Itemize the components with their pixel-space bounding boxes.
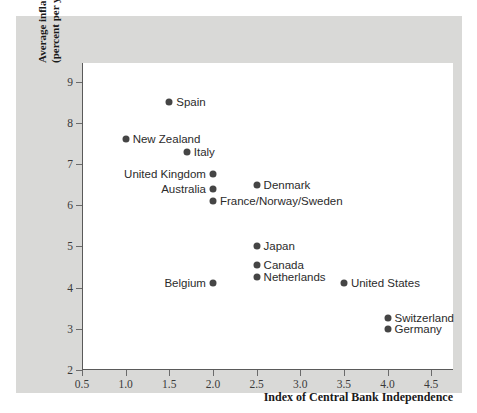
data-point-marker[interactable] bbox=[166, 99, 173, 106]
y-tick-label: 6 bbox=[67, 199, 73, 211]
x-tick-mark bbox=[344, 370, 345, 376]
figure-panel: 23456789 0.51.01.52.02.53.03.54.04.5 Spa… bbox=[16, 16, 462, 393]
y-tick-mark bbox=[76, 164, 82, 165]
data-point-label: Canada bbox=[264, 259, 304, 271]
y-tick-mark bbox=[76, 288, 82, 289]
y-axis-title: Average inflation (percent per year) bbox=[36, 0, 62, 63]
x-tick-label: 2.0 bbox=[206, 378, 220, 390]
data-point-marker[interactable] bbox=[183, 148, 190, 155]
data-point-label: Denmark bbox=[264, 179, 311, 191]
y-tick-mark bbox=[76, 205, 82, 206]
data-point-marker[interactable] bbox=[122, 136, 129, 143]
x-tick-mark bbox=[169, 370, 170, 376]
x-tick-mark bbox=[82, 370, 83, 376]
y-tick-label: 7 bbox=[67, 158, 73, 170]
data-point-label: Italy bbox=[194, 146, 215, 158]
data-point-marker[interactable] bbox=[209, 171, 216, 178]
data-point-label: Belgium bbox=[164, 277, 206, 289]
data-point-marker[interactable] bbox=[253, 261, 260, 268]
x-tick-label: 1.5 bbox=[162, 378, 176, 390]
data-point-marker[interactable] bbox=[384, 315, 391, 322]
y-axis-title-line1: Average inflation bbox=[36, 0, 49, 63]
x-tick-label: 1.0 bbox=[118, 378, 132, 390]
data-point-marker[interactable] bbox=[253, 274, 260, 281]
x-tick-label: 0.5 bbox=[75, 378, 89, 390]
x-tick-mark bbox=[257, 370, 258, 376]
x-tick-mark bbox=[300, 370, 301, 376]
data-point-marker[interactable] bbox=[384, 325, 391, 332]
x-tick-mark bbox=[388, 370, 389, 376]
plot-area: 23456789 0.51.01.52.02.53.03.54.04.5 Spa… bbox=[82, 63, 453, 370]
y-tick-label: 2 bbox=[67, 364, 73, 376]
data-point-marker[interactable] bbox=[209, 280, 216, 287]
data-point-label: Germany bbox=[395, 323, 442, 335]
y-tick-mark bbox=[76, 246, 82, 247]
y-tick-label: 8 bbox=[67, 117, 73, 129]
y-tick-mark bbox=[76, 329, 82, 330]
data-point-label: Australia bbox=[161, 183, 206, 195]
x-tick-label: 2.5 bbox=[249, 378, 263, 390]
data-point-marker[interactable] bbox=[253, 181, 260, 188]
x-tick-mark bbox=[431, 370, 432, 376]
y-tick-mark bbox=[76, 123, 82, 124]
y-tick-label: 4 bbox=[67, 282, 73, 294]
y-tick-mark bbox=[76, 82, 82, 83]
y-tick-label: 3 bbox=[67, 323, 73, 335]
x-tick-label: 4.0 bbox=[380, 378, 394, 390]
y-axis-title-line2: (percent per year) bbox=[49, 0, 62, 63]
data-point-label: Spain bbox=[176, 96, 205, 108]
x-axis-title: Index of Central Bank Independence bbox=[82, 390, 453, 405]
data-point-label: New Zealand bbox=[133, 133, 201, 145]
data-point-marker[interactable] bbox=[209, 198, 216, 205]
x-tick-label: 3.0 bbox=[293, 378, 307, 390]
data-point-label: United States bbox=[351, 277, 420, 289]
data-point-label: Japan bbox=[264, 240, 295, 252]
y-tick-label: 5 bbox=[67, 240, 73, 252]
data-point-marker[interactable] bbox=[209, 185, 216, 192]
x-tick-label: 3.5 bbox=[337, 378, 351, 390]
data-point-marker[interactable] bbox=[253, 243, 260, 250]
x-tick-mark bbox=[213, 370, 214, 376]
data-point-label: United Kingdom bbox=[124, 168, 206, 180]
data-point-label: Netherlands bbox=[264, 271, 326, 283]
x-tick-mark bbox=[126, 370, 127, 376]
data-point-marker[interactable] bbox=[340, 280, 347, 287]
data-point-label: France/Norway/Sweden bbox=[220, 195, 343, 207]
scatter-chart-figure: 23456789 0.51.01.52.02.53.03.54.04.5 Spa… bbox=[0, 0, 477, 413]
y-tick-label: 9 bbox=[67, 76, 73, 88]
x-tick-label: 4.5 bbox=[424, 378, 438, 390]
